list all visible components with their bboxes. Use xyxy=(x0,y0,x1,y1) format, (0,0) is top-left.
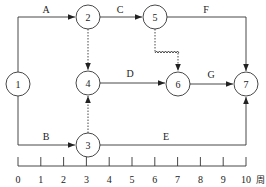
activity-f: F xyxy=(167,4,246,71)
activity-e-arrow xyxy=(100,97,246,145)
node-1-label: 1 xyxy=(16,79,21,90)
activity-b-label: B xyxy=(43,131,50,142)
activity-f-arrow xyxy=(167,17,246,71)
node-5: 5 xyxy=(143,5,167,29)
tick-label-1: 1 xyxy=(38,174,43,185)
network-diagram: A B C F D G E 1 xyxy=(0,0,266,187)
tick-label-6: 6 xyxy=(152,174,157,185)
activity-c: C xyxy=(100,4,142,17)
tick-label-0: 0 xyxy=(16,174,21,185)
activity-d: D xyxy=(100,68,165,83)
activity-e: E xyxy=(100,97,246,145)
node-6-label: 6 xyxy=(176,79,181,90)
node-3: 3 xyxy=(76,133,100,157)
activity-a: A xyxy=(18,4,75,72)
activity-d-label: D xyxy=(126,68,133,79)
activity-g: G xyxy=(190,69,233,84)
node-7: 7 xyxy=(234,72,258,96)
activity-e-label: E xyxy=(163,131,169,142)
time-unit-label: 周 xyxy=(256,175,265,185)
tick-label-2: 2 xyxy=(61,174,66,185)
tick-label-4: 4 xyxy=(107,174,112,185)
node-1: 1 xyxy=(6,72,30,96)
node-4: 4 xyxy=(76,71,100,95)
activity-f-label: F xyxy=(203,4,209,15)
node-4-label: 4 xyxy=(86,78,91,89)
node-2-label: 2 xyxy=(86,12,91,23)
tick-label-7: 7 xyxy=(175,174,180,185)
tick-label-3: 3 xyxy=(84,174,89,185)
activity-b: B xyxy=(18,96,75,145)
node-6: 6 xyxy=(166,72,190,96)
tick-label-5: 5 xyxy=(130,174,135,185)
tick-label-9: 9 xyxy=(221,174,226,185)
node-5-label: 5 xyxy=(153,12,158,23)
time-scale: 0 1 2 3 4 5 6 7 8 9 10 周 xyxy=(16,157,266,185)
activity-a-label: A xyxy=(42,4,50,15)
activity-g-label: G xyxy=(207,69,214,80)
activity-c-label: C xyxy=(117,4,124,15)
node-3-label: 3 xyxy=(86,140,91,151)
node-7-label: 7 xyxy=(244,79,249,90)
dummy-activity-5-6 xyxy=(155,29,179,71)
tick-label-8: 8 xyxy=(198,174,203,185)
tick-label-10: 10 xyxy=(241,174,251,185)
node-2: 2 xyxy=(76,5,100,29)
free-float-wavy-line xyxy=(155,51,179,53)
activity-a-arrow xyxy=(18,17,75,72)
